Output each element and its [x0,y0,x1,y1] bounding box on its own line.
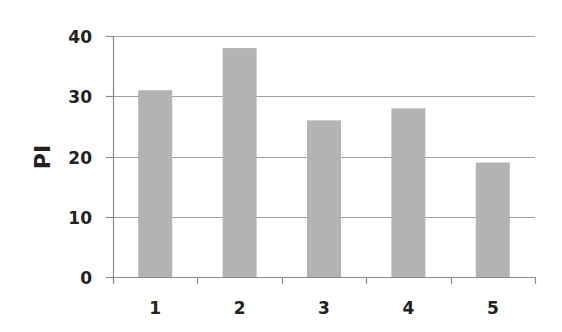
y-tick-label: 20 [68,148,92,168]
x-tick-label: 3 [318,298,330,318]
x-tick-label: 2 [234,298,246,318]
x-tick-label: 4 [402,298,414,318]
x-tick-label: 1 [149,298,161,318]
y-tick-label: 10 [68,208,92,228]
bar-1 [138,90,172,277]
bar-2 [223,48,257,277]
y-axis-title: PI [30,145,55,169]
y-tick-label: 40 [68,27,92,47]
y-tick-labels: 010203040 [68,27,92,288]
y-tick-label: 30 [68,87,92,107]
x-tick-label: 5 [487,298,499,318]
bar-4 [391,108,425,277]
bars [138,48,510,277]
bar-chart: 010203040 12345 PI [0,0,562,332]
y-tick-label: 0 [80,268,92,288]
bar-3 [307,120,341,277]
bar-5 [476,163,510,277]
x-tick-labels: 12345 [149,298,498,318]
